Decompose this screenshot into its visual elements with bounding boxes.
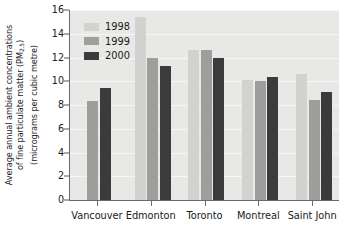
bar-group [178,10,232,200]
legend-item: 1999 [84,35,146,48]
bar [188,50,199,200]
bar [100,88,111,200]
bar [242,80,253,200]
y-axis-tick-label: 10 [52,76,64,86]
x-axis-tick-label: Toronto [187,209,223,222]
bar [147,58,158,201]
legend-swatch-icon [84,52,99,60]
bar [213,58,224,201]
bar [255,81,266,200]
x-axis-tick-label: Vancouver [71,209,122,222]
legend-swatch-icon [84,23,99,31]
legend-item: 1998 [84,20,146,33]
x-axis-tick-marks [70,201,339,207]
chart-legend: 199819992000 [84,20,146,64]
x-axis-tick-mark [151,201,152,206]
bar-chart-figure: Average annual ambient concentrations of… [0,0,344,238]
x-axis-tick-label: Montreal [237,209,280,222]
x-axis-tick-mark [205,201,206,206]
bar [87,101,98,200]
x-axis-tick-mark [258,201,259,206]
legend-item: 2000 [84,49,146,62]
legend-label: 1999 [105,36,130,47]
y-axis-title-line-2: of fine particulate matter (PM2.5) [15,25,29,185]
x-axis-tick-label: Edmonton [126,209,176,222]
bar [296,74,307,200]
x-axis-tick-mark [97,201,98,206]
y-axis-tick-labels: 0246810121416 [42,10,64,200]
y-axis-tick-label: 12 [52,53,64,63]
bar-group [231,10,285,200]
bar [201,50,212,200]
x-axis-tick-mark [312,201,313,206]
bar-group [285,10,339,200]
y-axis-tick-label: 16 [52,5,64,15]
bar [267,77,278,201]
bar [309,100,320,200]
legend-label: 1998 [105,21,130,32]
y-axis-tick-label: 14 [52,29,64,39]
y-axis-title: Average annual ambient concentrations of… [0,0,44,210]
legend-label: 2000 [105,50,130,61]
bar [160,66,171,200]
bar [321,92,332,200]
x-axis-tick-label: Saint John [288,209,337,222]
y-axis-title-line-1: Average annual ambient concentrations [4,25,15,185]
legend-swatch-icon [84,37,99,45]
y-axis-title-line-3: (micrograms per cubic metre) [29,25,40,185]
x-axis-tick-labels: VancouverEdmontonTorontoMontrealSaint Jo… [56,209,344,227]
